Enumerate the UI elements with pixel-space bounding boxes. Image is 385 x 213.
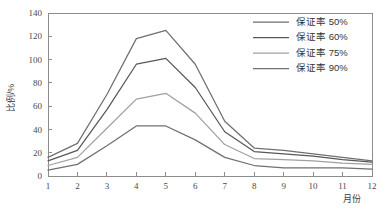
x-tick-label: 5	[164, 181, 169, 191]
x-axis-title: 月份	[343, 193, 361, 204]
x-tick-label: 7	[222, 181, 227, 191]
x-axis-tick-group: 123456789101112	[46, 172, 377, 191]
legend-label-4: 保证率 90%	[296, 62, 348, 73]
y-tick-label: 80	[33, 78, 43, 88]
series-line-90	[48, 126, 372, 170]
x-tick-label: 11	[338, 181, 347, 191]
legend-label-2: 保证率 60%	[296, 31, 348, 42]
y-tick-label: 20	[33, 148, 43, 158]
x-tick-label: 2	[75, 181, 80, 191]
y-tick-label: 140	[29, 8, 43, 18]
x-tick-label: 9	[281, 181, 286, 191]
x-tick-label: 10	[309, 181, 319, 191]
x-tick-label: 12	[368, 181, 377, 191]
y-tick-label: 0	[38, 171, 43, 181]
x-tick-label: 1	[46, 181, 51, 191]
x-tick-label: 4	[134, 181, 139, 191]
x-tick-label: 6	[193, 181, 198, 191]
y-tick-label: 40	[33, 125, 43, 135]
line-chart-figure: 020406080100120140 123456789101112 保证率 5…	[0, 0, 385, 213]
chart-canvas: 020406080100120140 123456789101112 保证率 5…	[0, 0, 385, 213]
chart-legend: 保证率 50%保证率 60%保证率 75%保证率 90%	[253, 16, 348, 74]
y-tick-label: 100	[29, 55, 43, 65]
y-tick-label: 120	[29, 31, 43, 41]
x-tick-label: 3	[105, 181, 110, 191]
series-line-60	[48, 58, 372, 162]
x-tick-label: 8	[252, 181, 257, 191]
y-axis-title: 比例/%	[5, 84, 16, 113]
legend-label-3: 保证率 75%	[296, 47, 348, 58]
legend-label-1: 保证率 50%	[296, 16, 348, 27]
y-tick-label: 60	[33, 101, 43, 111]
